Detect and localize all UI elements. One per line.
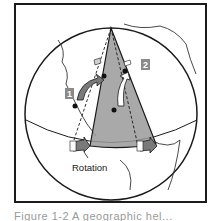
marker-1-label: 1 — [67, 89, 72, 99]
location-dot — [73, 104, 78, 109]
rotation-label: Rotation — [72, 162, 107, 173]
marker-2-label: 2 — [143, 60, 148, 70]
location-dot — [123, 69, 128, 74]
rotation-arrow-right-tail — [137, 141, 143, 151]
globe-diagram: 1 2 Rotation — [0, 0, 214, 221]
rotation-arrow-left-tail — [70, 141, 76, 151]
location-dot — [102, 74, 107, 79]
figure-caption: Figure 1-2 A geographic hel... — [14, 210, 173, 221]
location-dot — [112, 108, 117, 113]
